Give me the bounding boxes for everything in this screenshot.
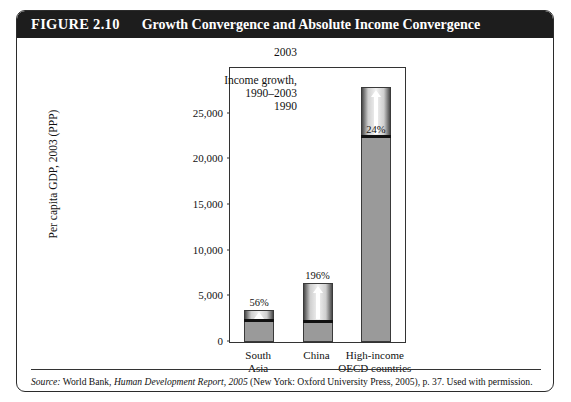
annotation-income-growth-line2: 1990–2003 <box>157 87 297 100</box>
growth-arrow-icon <box>255 312 263 318</box>
source-report-title: Human Development Report, 2005 <box>114 376 248 387</box>
bar-segment-1990[interactable] <box>361 137 391 343</box>
bar-divider <box>244 319 274 322</box>
annotation-1990: 1990 <box>177 100 297 113</box>
source-publisher: World Bank, <box>63 376 112 387</box>
x-axis-category-label: China <box>303 349 329 362</box>
y-tick-label: 15,000 <box>193 198 223 210</box>
growth-percent-label: 196% <box>305 270 330 281</box>
bar-segment-1990[interactable] <box>303 322 333 342</box>
figure-title-bar: FIGURE 2.10 Growth Convergence and Absol… <box>17 11 553 38</box>
x-axis-category-label: High-incomeOECD countries <box>338 349 411 375</box>
source-note: Source: World Bank, Human Development Re… <box>31 376 543 388</box>
chart-region: Per capita GDP, 2003 (PPP) 05,00010,0001… <box>17 38 553 368</box>
bar-divider <box>303 320 333 323</box>
y-tick-label: 0 <box>218 335 224 347</box>
growth-percent-label: 24% <box>366 124 385 135</box>
annotation-income-growth-line1: Income growth, <box>157 74 297 87</box>
growth-percent-label: 56% <box>250 297 269 308</box>
y-tick-label: 10,000 <box>193 244 223 256</box>
figure-number-label: FIGURE 2.10 <box>31 16 120 33</box>
source-rest: (New York: Oxford University Press, 2005… <box>250 376 532 387</box>
bar-divider <box>361 135 391 138</box>
figure-card: FIGURE 2.10 Growth Convergence and Absol… <box>16 10 554 392</box>
growth-arrow-icon <box>314 286 322 319</box>
y-tick-label: 20,000 <box>193 152 223 164</box>
source-divider <box>31 369 541 370</box>
y-axis-title: Per capita GDP, 2003 (PPP) <box>47 74 59 274</box>
y-tick-label: 5,000 <box>198 289 223 301</box>
source-prefix: Source: <box>31 376 60 387</box>
bar-segment-1990[interactable] <box>244 321 274 342</box>
x-axis-category-label: SouthAsia <box>245 349 271 375</box>
figure-title-text: Growth Convergence and Absolute Income C… <box>142 17 480 33</box>
annotation-2003: 2003 <box>177 46 297 59</box>
